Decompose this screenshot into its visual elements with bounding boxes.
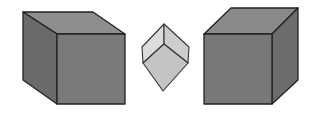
right-cube bbox=[204, 8, 298, 104]
middle-cube bbox=[142, 24, 189, 91]
cubes-figure bbox=[0, 0, 318, 120]
left-cube-front-face bbox=[57, 34, 125, 104]
left-cube bbox=[23, 12, 125, 104]
right-cube-front-face bbox=[204, 34, 272, 104]
